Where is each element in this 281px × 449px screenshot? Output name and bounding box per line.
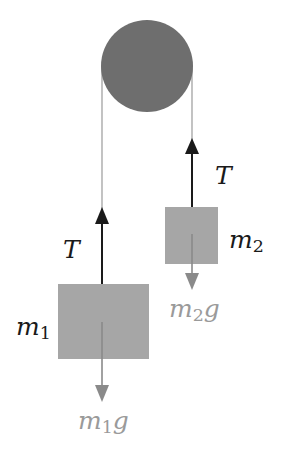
tension-label-right: T [215,163,232,188]
weight2-suffix: g [204,294,220,323]
weight1-suffix: g [113,406,129,435]
pulley [101,20,193,112]
weight1-label: m1g [78,408,129,437]
mass2-sub: 2 [253,236,264,256]
mass1-label: m1 [16,314,51,343]
weight1-base: m [78,406,102,435]
weight2-sub: 2 [193,305,204,325]
weight-arrowhead-m1-icon [95,385,109,402]
weight2-base: m [169,294,193,323]
tension-arrowhead-right-icon [185,138,199,154]
mass2-base: m [229,225,253,254]
mass1-base: m [16,312,40,341]
block-m1 [58,284,149,359]
tension-arrowhead-left-icon [95,207,109,224]
weight-arrowhead-m2-icon [185,273,199,290]
mass2-label: m2 [229,227,264,256]
mass1-sub: 1 [40,323,51,343]
weight1-sub: 1 [102,417,113,437]
tension-label-left: T [63,237,80,262]
weight2-label: m2g [169,296,220,325]
